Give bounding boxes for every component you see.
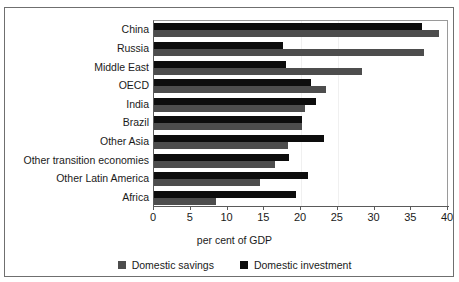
category-label-middle-east: Middle East	[94, 61, 149, 73]
x-axis-tick	[263, 206, 264, 210]
category-label-other-transition-economies: Other transition economies	[24, 154, 149, 166]
bar-group	[154, 61, 447, 75]
x-axis-tick	[227, 206, 228, 210]
bar-domestic-savings	[154, 68, 362, 75]
bar-domestic-investment	[154, 135, 324, 142]
x-axis-line	[153, 206, 449, 207]
legend-label: Domestic investment	[254, 259, 351, 271]
legend-swatch-icon	[240, 261, 248, 269]
bar-domestic-savings	[154, 198, 216, 205]
bar-domestic-savings	[154, 86, 326, 93]
category-label-other-latin-america: Other Latin America	[56, 172, 149, 184]
chart-frame: ChinaRussiaMiddle EastOECDIndiaBrazilOth…	[4, 7, 454, 277]
category-label-india: India	[126, 98, 149, 110]
bar-domestic-investment	[154, 154, 289, 161]
category-axis-labels: ChinaRussiaMiddle EastOECDIndiaBrazilOth…	[5, 20, 149, 206]
x-axis-tick-label: 20	[294, 211, 306, 223]
x-axis-tick-label: 25	[331, 211, 343, 223]
x-axis-tick-label: 40	[441, 211, 453, 223]
category-label-russia: Russia	[117, 42, 149, 54]
legend-label: Domestic savings	[132, 259, 214, 271]
category-label-oecd: OECD	[119, 79, 149, 91]
x-axis-tick	[190, 206, 191, 210]
x-axis-tick-label: 5	[187, 211, 193, 223]
x-axis-tick	[300, 206, 301, 210]
bar-domestic-savings	[154, 179, 260, 186]
bar-domestic-savings	[154, 161, 275, 168]
chart-figure: ChinaRussiaMiddle EastOECDIndiaBrazilOth…	[0, 0, 459, 282]
bar-group	[154, 191, 447, 205]
bar-domestic-investment	[154, 116, 302, 123]
bar-group	[154, 116, 447, 130]
category-label-other-asia: Other Asia	[100, 135, 149, 147]
bar-group	[154, 42, 447, 56]
bar-domestic-investment	[154, 61, 286, 68]
category-label-brazil: Brazil	[123, 116, 149, 128]
bar-group	[154, 79, 447, 93]
bar-domestic-savings	[154, 123, 302, 130]
bar-domestic-investment	[154, 23, 422, 30]
x-axis-tick	[374, 206, 375, 210]
x-axis-tick	[410, 206, 411, 210]
x-axis-tick	[447, 206, 448, 210]
bar-domestic-savings	[154, 30, 439, 37]
bar-group	[154, 172, 447, 186]
x-axis-tick-label: 35	[404, 211, 416, 223]
legend-item[interactable]: Domestic investment	[240, 259, 351, 271]
bar-domestic-savings	[154, 49, 424, 56]
chart-legend: Domestic savingsDomestic investment	[5, 259, 459, 271]
bar-domestic-investment	[154, 172, 308, 179]
bar-domestic-investment	[154, 191, 296, 198]
x-axis-tick-label: 15	[257, 211, 269, 223]
bar-group	[154, 23, 447, 37]
bar-group	[154, 98, 447, 112]
bar-domestic-savings	[154, 105, 305, 112]
bar-domestic-savings	[154, 142, 288, 149]
bar-group	[154, 135, 447, 149]
x-axis-tick-label: 0	[150, 211, 156, 223]
x-axis-tick-label: 10	[220, 211, 232, 223]
bar-domestic-investment	[154, 42, 283, 49]
x-axis-tick	[153, 206, 154, 210]
bar-domestic-investment	[154, 79, 311, 86]
legend-item[interactable]: Domestic savings	[118, 259, 214, 271]
plot-area	[153, 20, 448, 206]
x-axis: 0510152025303540	[153, 206, 449, 230]
x-axis-tick	[337, 206, 338, 210]
legend-swatch-icon	[118, 261, 126, 269]
x-axis-tick-label: 30	[367, 211, 379, 223]
bar-group	[154, 154, 447, 168]
category-label-africa: Africa	[122, 191, 149, 203]
x-axis-title: per cent of GDP	[5, 234, 459, 246]
bar-domestic-investment	[154, 98, 316, 105]
category-label-china: China	[122, 23, 149, 35]
chart-title-clipped	[0, 0, 459, 7]
